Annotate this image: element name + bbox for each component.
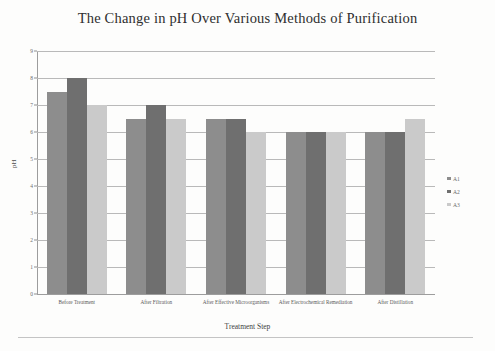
x-category-label: After Electrochemical Remediation (279, 299, 353, 305)
plot-area: 0123456789Before TreatmentAfter Filtrati… (37, 51, 435, 294)
y-axis-title: pH (10, 159, 18, 168)
x-category-label: After Distillation (358, 299, 432, 305)
bar-a1 (206, 119, 226, 295)
bar-a1 (47, 92, 67, 295)
bar-a3 (87, 105, 107, 294)
x-axis-line (37, 294, 435, 295)
y-tick-label: 6 (30, 129, 33, 135)
y-tick-label: 4 (30, 183, 33, 189)
bar-group: Before Treatment (37, 51, 117, 294)
legend-item-a3[interactable]: A3 (447, 198, 460, 211)
x-category-label: Before Treatment (40, 299, 114, 305)
x-category-label: After Effective Microorganisms (199, 299, 273, 305)
legend-swatch-icon (447, 177, 451, 181)
legend-swatch-icon (447, 190, 451, 194)
chart-legend: A1A2A3 (447, 172, 460, 211)
bar-a2 (67, 78, 87, 294)
legend-swatch-icon (447, 203, 451, 207)
x-axis-title: Treatment Step (0, 322, 495, 331)
bar-a3 (405, 119, 425, 295)
horizontal-rule (18, 337, 473, 338)
bar-group: After Distillation (355, 51, 435, 294)
legend-item-a1[interactable]: A1 (447, 172, 460, 185)
bar-a3 (166, 119, 186, 295)
legend-label: A1 (453, 176, 460, 182)
bar-a1 (286, 132, 306, 294)
bar-a3 (246, 132, 266, 294)
bar-a2 (226, 119, 246, 295)
bar-group: After Filtration (117, 51, 197, 294)
bar-a1 (126, 119, 146, 295)
legend-label: A2 (453, 189, 460, 195)
bar-a2 (385, 132, 405, 294)
y-tick-label: 0 (30, 291, 33, 297)
bar-a2 (146, 105, 166, 294)
y-tick-label: 9 (30, 48, 33, 54)
bar-a1 (365, 132, 385, 294)
y-tick-label: 5 (30, 156, 33, 162)
bar-group: After Electrochemical Remediation (276, 51, 356, 294)
bar-a2 (306, 132, 326, 294)
y-tick-label: 1 (30, 264, 33, 270)
bar-chart: pH 0123456789Before TreatmentAfter Filtr… (0, 0, 495, 330)
x-category-label: After Filtration (119, 299, 193, 305)
y-tick-label: 2 (30, 237, 33, 243)
y-tick-label: 3 (30, 210, 33, 216)
bar-group: After Effective Microorganisms (196, 51, 276, 294)
y-tick-label: 7 (30, 102, 33, 108)
bar-a3 (326, 132, 346, 294)
legend-label: A3 (453, 202, 460, 208)
y-tick-label: 8 (30, 75, 33, 81)
legend-item-a2[interactable]: A2 (447, 185, 460, 198)
document-page: The Change in pH Over Various Methods of… (0, 0, 495, 351)
